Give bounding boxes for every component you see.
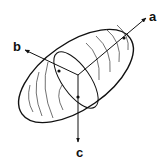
axis-c-point	[76, 95, 79, 98]
axis-b-label: b	[13, 39, 21, 54]
axis-c-label: c	[76, 145, 83, 160]
cross-section	[46, 45, 107, 115]
axis-b-point	[57, 69, 60, 72]
axis-a-label: a	[149, 9, 157, 24]
axis-a-point	[122, 36, 125, 39]
axis-a	[78, 18, 146, 75]
ellipsoid-diagram: a b c	[0, 0, 166, 164]
ellipsoid-outline	[3, 11, 149, 141]
